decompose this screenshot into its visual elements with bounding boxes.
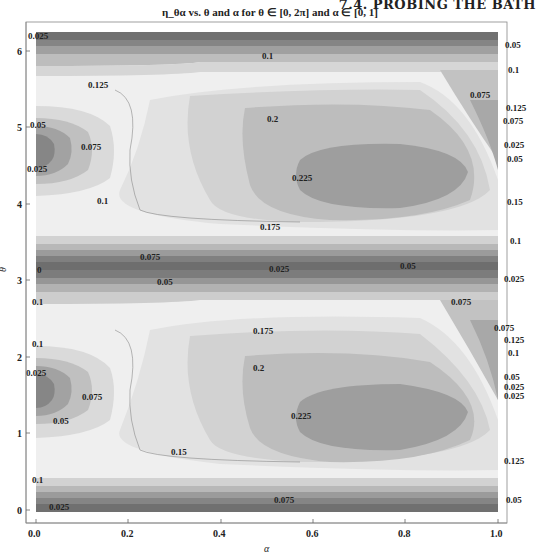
x-tick: 0.0 (28, 528, 41, 539)
contour-label: 0.05 (30, 120, 46, 130)
contour-label: 0.1 (97, 196, 109, 206)
contour-label: 0.025 (504, 140, 525, 150)
contour-label: 0.175 (260, 222, 281, 232)
contour-label: 0.05 (53, 416, 69, 426)
contour-label: 0.075 (494, 323, 515, 333)
contour-fill-layer (36, 32, 498, 512)
contour-label: 0.1 (32, 475, 44, 485)
x-tick: 0.6 (306, 528, 319, 539)
contour-label: 0.025 (28, 31, 49, 41)
contour-label: 0.1 (508, 65, 520, 75)
contour-label: 0.05 (157, 277, 173, 287)
y-tick: 1 (17, 428, 22, 439)
contour-label: 0.075 (274, 495, 295, 505)
y-axis: 0 1 2 3 4 5 6 θ (0, 22, 30, 523)
x-tick: 1.0 (490, 528, 503, 539)
contour-label: 0.05 (505, 40, 521, 50)
x-tick: 0.4 (213, 528, 226, 539)
contour-label: 0.2 (253, 363, 265, 373)
contour-label: 0.125 (506, 103, 527, 113)
y-tick: 6 (17, 46, 22, 57)
x-tick: 0.8 (398, 528, 411, 539)
contour-label: 0.075 (81, 142, 102, 152)
x-tick: 0.2 (121, 528, 134, 539)
contour-label: 0.075 (82, 392, 103, 402)
y-axis-label: θ (0, 267, 8, 272)
contour-label: 0.075 (470, 90, 491, 100)
contour-label: 0 (37, 265, 42, 275)
contour-label: 0.1 (262, 51, 274, 61)
y-tick: 2 (17, 352, 22, 363)
contour-label: 0.1 (508, 348, 520, 358)
contour-label: 0.075 (140, 252, 161, 262)
contour-label: 0.1 (510, 236, 522, 246)
contour-label: 0.025 (49, 502, 70, 512)
contour-label: 0.1 (32, 297, 44, 307)
y-tick: 4 (17, 199, 22, 210)
contour-label: 0.125 (504, 456, 525, 466)
y-tick: 0 (17, 505, 22, 516)
contour-label: 0.025 (269, 264, 290, 274)
contour-label: 0.025 (27, 164, 48, 174)
x-axis: 0.0 0.2 0.4 0.6 0.8 1.0 α (26, 519, 507, 554)
contour-label: 0.05 (507, 154, 523, 164)
contour-label: 0.15 (171, 447, 187, 457)
y-tick: 3 (17, 275, 22, 286)
contour-label: 0.175 (253, 326, 274, 336)
contour-plot: 0.025 0.1 0.05 0.1 0.125 0.075 0.125 0.0… (0, 0, 540, 555)
contour-label: 0.125 (88, 80, 109, 90)
contour-label: 0.075 (503, 116, 524, 126)
contour-label: 0.125 (504, 335, 525, 345)
contour-label: 0.025 (504, 391, 525, 401)
y-tick: 5 (17, 122, 22, 133)
contour-label: 0.2 (267, 114, 279, 124)
x-axis-label: α (264, 543, 270, 554)
contour-label: 0.075 (451, 297, 472, 307)
contour-label: 0.225 (291, 411, 312, 421)
contour-label: 0.225 (292, 173, 313, 183)
contour-label: 0.025 (504, 274, 525, 284)
contour-label: 0.1 (32, 339, 44, 349)
contour-label: 0.05 (400, 261, 416, 271)
contour-label: 0.15 (507, 197, 523, 207)
contour-label: 0.025 (26, 368, 47, 378)
contour-label: 0.05 (504, 372, 520, 382)
contour-label: 0.05 (506, 495, 522, 505)
